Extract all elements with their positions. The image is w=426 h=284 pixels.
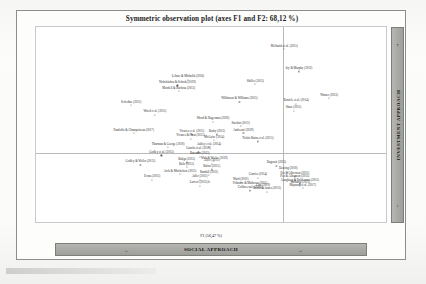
data-point [190, 139, 191, 140]
data-point [212, 121, 213, 122]
data-point [167, 147, 168, 148]
data-point [296, 103, 297, 104]
data-point-label: Pandolfo & Champoiseau (2017) [114, 129, 154, 132]
data-point [161, 155, 162, 156]
investment-approach-banner: INVESTMENT APPROACH ↑ ↓ [391, 27, 404, 223]
y-tick-mark [35, 32, 36, 33]
x-axis-label: F1 (56,47 %) [35, 233, 387, 238]
data-point [208, 175, 209, 176]
data-point-label: Shiller (2013) [247, 80, 264, 83]
data-point-label: Wood et al. (2015) [143, 110, 166, 113]
data-point-label: Tiehin Rains et al. (2015) [242, 137, 273, 140]
data-point-label: Sefiedine (2015) [121, 101, 141, 104]
data-point [243, 133, 244, 134]
data-point-label: Balir (2015) [179, 163, 194, 166]
data-point-label: Dearing (2010) [279, 168, 298, 171]
data-point [284, 49, 285, 50]
data-point-label: Booth & James (2012) [253, 188, 281, 191]
social-approach-banner: SOCIAL APPROACH ← → [55, 243, 367, 256]
data-point-label: McGuire (2014) [204, 136, 224, 139]
data-point [267, 191, 268, 192]
data-point-label: Allier (2011) [204, 159, 220, 162]
scatter-plot-area: Melhuish et al. (2015)Joy & Murphy (2012… [35, 26, 387, 223]
data-point-label: Godley & Weiler (2015) [125, 161, 155, 164]
data-point [240, 126, 241, 127]
data-point-label: Wilkinson & Williams (2015) [221, 98, 257, 101]
data-point-label: Thurman & George (2010) [152, 143, 185, 146]
x-tick-mark [102, 222, 103, 223]
data-point [178, 91, 179, 92]
data-point-label: Ashley et al. (2014) [197, 143, 221, 146]
data-point-label: Loucks et al. (2020) [186, 148, 211, 151]
data-point-label: Barby (2011) [209, 130, 225, 133]
data-point-label: Evans (2015) [144, 176, 160, 179]
data-point-label: Andreoni (2019) [233, 129, 253, 132]
data-point-label: Ronicle et al. (2014) [284, 100, 309, 103]
data-point [186, 167, 187, 168]
data-point-label: Dagrosit (2015) [267, 162, 286, 165]
data-point [214, 140, 215, 141]
data-point [329, 98, 330, 99]
chart-title: Symmetric observation plot (axes F1 and … [17, 15, 407, 23]
y-tick-mark [35, 207, 36, 208]
data-point-label: Balner (2015) [203, 165, 220, 168]
right-arrow-icon: → [298, 247, 303, 252]
data-point-label: Baliga (2015) [178, 158, 195, 161]
data-point [154, 114, 155, 115]
data-point-label: Wood & Hagerman (2020) [197, 117, 230, 120]
data-point-label: Maynard et al. (2017) [289, 184, 316, 187]
figure-frame: Symmetric observation plot (axes F1 and … [16, 10, 406, 260]
scan-caption-smudge [6, 268, 156, 274]
data-point [179, 174, 180, 175]
x-tick-mark [168, 222, 169, 223]
data-point-label: Vivares & Plaut (2015) [176, 135, 204, 138]
data-point [276, 165, 277, 166]
data-point-label: Godley et al. (2015) [149, 151, 174, 154]
investment-approach-label: INVESTMENT APPROACH [395, 90, 400, 160]
data-point-label: Sinclair (2011) [232, 122, 250, 125]
data-point [293, 110, 294, 111]
data-point [131, 105, 132, 106]
data-point [257, 141, 258, 142]
data-point [133, 133, 134, 134]
y-tick-mark [35, 91, 36, 92]
x-tick-mark [36, 222, 37, 223]
data-point [239, 101, 240, 102]
data-point-label: Conrier (2014) [249, 173, 267, 176]
data-point [257, 177, 258, 178]
data-point [140, 164, 141, 165]
data-point [255, 84, 256, 85]
data-point [199, 185, 200, 186]
data-point-label: Ward (2010) [233, 178, 248, 181]
horizontal-zero-axis [36, 153, 386, 154]
left-arrow-icon: ← [124, 247, 129, 252]
data-point-label: Larvert (2015) b [190, 182, 210, 185]
data-point [249, 190, 250, 191]
data-point-label: Nicholaidou & Schock (2019) [159, 81, 196, 84]
data-point-label: Melhuish et al. (2015) [271, 45, 298, 48]
data-point-label: Lehner & Michalik (2016) [172, 75, 204, 78]
data-point-label: Bateman (2015) [190, 152, 210, 155]
data-point [302, 188, 303, 189]
data-point-label: Warner (2013) [320, 94, 338, 97]
data-point-label: Mendell & Barbosa (2013) [162, 87, 195, 90]
down-arrow-icon: ↓ [396, 202, 399, 207]
up-arrow-icon: ↑ [396, 43, 399, 48]
social-approach-label: SOCIAL APPROACH [184, 247, 238, 252]
data-point-label: Vivares et al. (2015) [179, 130, 204, 133]
data-point [152, 179, 153, 180]
data-point-label: Adler (2011) [192, 176, 208, 179]
x-tick-mark [366, 222, 367, 223]
data-point-label: Randall (2011) [200, 171, 218, 174]
data-point-label: Shaw (2015) [286, 107, 302, 110]
y-tick-mark [35, 149, 36, 150]
data-point-label: Arch & Mitchelson (2015) [164, 170, 197, 173]
vertical-zero-axis [283, 27, 284, 222]
data-point-label: Joy & Murphy (2012) [285, 67, 312, 70]
x-tick-mark [300, 222, 301, 223]
x-tick-mark [234, 222, 235, 223]
data-point [298, 71, 299, 72]
